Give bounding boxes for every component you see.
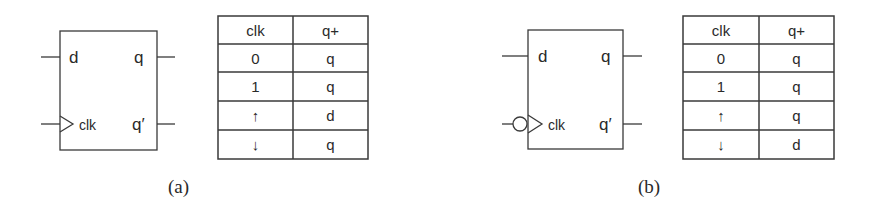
rising-edge-arrow-icon: ↑	[717, 107, 725, 124]
flipflop-b-d-label: d	[538, 47, 547, 66]
truth-table-a-header-clk: clk	[246, 22, 265, 39]
truth-table-b-cell: q	[792, 107, 800, 124]
truth-table-b-header-clk: clk	[712, 22, 731, 39]
clock-edge-triangle-icon	[60, 116, 73, 132]
truth-table-b-cell: q	[792, 50, 800, 67]
flipflop-b: d q clk q′ (b)	[502, 30, 660, 198]
flipflop-a-qbar-label: q′	[132, 115, 145, 134]
truth-table-a-cell: 0	[251, 50, 259, 67]
flipflop-a-q-label: q	[134, 48, 143, 67]
falling-edge-arrow-icon: ↓	[717, 136, 725, 153]
truth-table-b-cell: d	[792, 136, 800, 153]
truth-table-a-cell: q	[326, 136, 334, 153]
clock-edge-triangle-icon	[528, 115, 542, 133]
truth-table-a-cell: q	[326, 78, 334, 95]
truth-table-b: clk q+ 0 q 1 q ↑ q ↓ d	[683, 16, 834, 159]
flipflop-a: d q clk q′ (a)	[41, 31, 189, 198]
truth-table-a-header-qnext: q+	[322, 22, 339, 39]
flipflop-figure: d q clk q′ (a) clk q+ 0 q 1 q ↑ d ↓ q d …	[0, 0, 870, 204]
truth-table-b-cell: 0	[717, 50, 725, 67]
flipflop-a-d-label: d	[69, 48, 78, 67]
falling-edge-arrow-icon: ↓	[252, 136, 260, 153]
caption-b: (b)	[638, 176, 660, 198]
truth-table-b-cell: 1	[717, 78, 725, 95]
flipflop-b-qbar-label: q′	[599, 115, 612, 134]
caption-a: (a)	[168, 176, 189, 198]
truth-table-a: clk q+ 0 q 1 q ↑ d ↓ q	[218, 16, 368, 159]
inversion-bubble-icon	[513, 117, 527, 131]
rising-edge-arrow-icon: ↑	[252, 107, 260, 124]
truth-table-b-header-qnext: q+	[788, 22, 805, 39]
truth-table-b-cell: q	[792, 78, 800, 95]
truth-table-a-cell: d	[326, 107, 334, 124]
flipflop-a-clk-label: clk	[79, 117, 97, 133]
flipflop-b-clk-label: clk	[548, 117, 566, 133]
truth-table-a-cell: q	[326, 50, 334, 67]
truth-table-a-cell: 1	[251, 78, 259, 95]
flipflop-b-q-label: q	[601, 47, 610, 66]
